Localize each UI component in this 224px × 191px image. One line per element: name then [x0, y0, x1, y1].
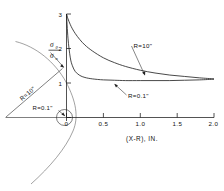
x-axis-title: (X-R), IN.	[126, 135, 158, 143]
sigma-denominator: σ	[50, 51, 54, 60]
annotation-R-0p1in: R=0.1"	[128, 92, 149, 99]
x-tick-label-15: 1.5	[173, 120, 183, 127]
x-tick-label-20: 2.0	[209, 120, 219, 127]
annotation-R-10in-leader	[132, 46, 145, 75]
sigma-ratio-arrowhead	[60, 64, 64, 68]
y-tick-label-3: 3	[59, 11, 63, 18]
annotation-R-10in: R=10"	[134, 42, 153, 49]
x-tick-label-10: 1.0	[136, 120, 146, 127]
x-axis-ticks	[67, 113, 215, 118]
y-tick-label-1: 1	[59, 80, 63, 87]
annotation-R-10in-arrowhead	[142, 71, 145, 75]
inset-large-arc	[16, 42, 77, 185]
sigma-denominator-subscript: n	[55, 56, 58, 61]
x-tick-label-0: 0	[65, 120, 69, 127]
hole-leader-arrowhead	[61, 112, 65, 116]
sigma-numerator: σ	[50, 40, 54, 49]
y-tick-label-2: 2	[59, 45, 63, 52]
x-tick-label-05: 0.5	[99, 120, 109, 127]
stress-ratio-figure: σ θ σ n R=10" R=0.1" 1 2 3 0 0.5 1.0 1.5…	[0, 0, 224, 191]
annotation-R-0p1in-arrowhead	[114, 84, 118, 88]
inset-label-R-10in: R=10"	[19, 85, 37, 101]
inset-label-R-0p1in: R=0.1"	[33, 105, 53, 111]
